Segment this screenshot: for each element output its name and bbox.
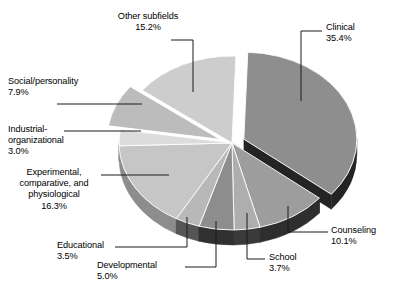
slice-label-social-personality: Social/personality 7.9%	[8, 76, 108, 98]
slice-label-clinical: Clinical 35.4%	[326, 22, 398, 44]
slice-label-school: School 3.7%	[269, 252, 329, 274]
pie-chart-figure: Other subfields 15.2% Clinical 35.4% Soc…	[0, 0, 403, 299]
slice-label-other-subfields: Other subfields 15.2%	[102, 11, 194, 33]
slice-label-experimental: Experimental, comparative, and physiolog…	[6, 167, 102, 212]
slice-label-developmental: Developmental 5.0%	[97, 260, 189, 282]
pie-slices-group	[108, 52, 356, 245]
slice-label-industrial-organizational: Industrial- organizational 3.0%	[8, 124, 98, 158]
slice-label-counseling: Counseling 10.1%	[331, 225, 401, 247]
